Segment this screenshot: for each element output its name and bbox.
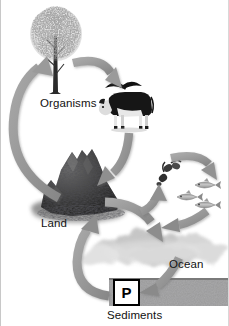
phosphorus-box-icon: P <box>113 279 140 306</box>
arrow-animals-to-land <box>97 133 129 186</box>
arrow-ocean-water-to-plankton <box>141 184 167 212</box>
arrow-sediments-to-land <box>77 214 109 296</box>
label-organisms: Organisms <box>40 98 97 110</box>
diagram-arrows <box>1 0 229 326</box>
phosphorus-symbol: P <box>121 285 131 300</box>
label-land: Land <box>41 218 67 230</box>
label-sediments: Sediments <box>107 310 162 322</box>
arrow-tree-to-animals <box>73 61 122 88</box>
arrow-ocean-fish-to-water <box>161 211 207 232</box>
arrow-land-to-organisms <box>13 56 59 198</box>
arrow-land-to-ocean <box>105 202 163 242</box>
phosphorus-cycle-diagram: P Organisms Land Ocean Sediments <box>0 0 229 326</box>
arrow-ocean-plankton-to-fish <box>171 156 217 180</box>
label-ocean: Ocean <box>169 259 203 271</box>
